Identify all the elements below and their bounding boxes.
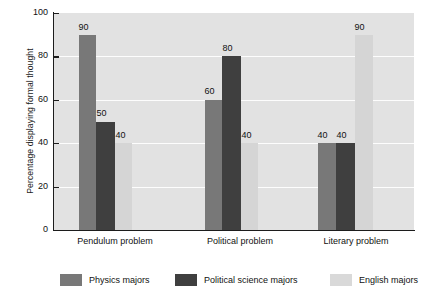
x-axis-label-political: Political problem — [175, 236, 305, 246]
y-axis-title: Percentage displaying formal thought — [25, 11, 35, 231]
legend-item-english-majors: English majors — [330, 271, 418, 289]
x-axis-label-literary: Literary problem — [292, 236, 420, 246]
y-tick-label-20: 20 — [14, 181, 48, 191]
value-label-pendulum-physics: 90 — [70, 22, 97, 32]
value-label-political-physics: 60 — [196, 86, 223, 96]
x-axis-label-pendulum: Pendulum problem — [45, 236, 185, 246]
legend-item-political-science-majors: Political science majors — [175, 271, 298, 289]
chart-legend: Physics majors Political science majors … — [0, 271, 431, 293]
bar-political-english — [241, 143, 258, 230]
legend-label-english-majors: English majors — [359, 275, 418, 285]
y-tick-40 — [54, 143, 59, 144]
y-tick-label-100: 100 — [14, 7, 48, 17]
legend-swatch-physics-majors — [60, 274, 82, 286]
bar-literary-political-science — [336, 143, 355, 230]
y-tick-100 — [54, 13, 59, 14]
y-tick-20 — [54, 187, 59, 188]
legend-label-physics-majors: Physics majors — [89, 275, 150, 285]
value-label-political-political-science: 80 — [214, 43, 241, 53]
value-label-pendulum-political-science: 50 — [88, 108, 115, 118]
value-label-political-english: 40 — [233, 130, 260, 140]
legend-item-physics-majors: Physics majors — [60, 271, 150, 289]
legend-swatch-english-majors — [330, 274, 352, 286]
x-axis-line — [53, 230, 415, 231]
bar-pendulum-english — [115, 143, 132, 230]
y-tick-80 — [54, 56, 59, 57]
y-tick-60 — [54, 100, 59, 101]
value-label-pendulum-english: 40 — [107, 130, 134, 140]
value-label-literary-english: 90 — [346, 22, 373, 32]
legend-swatch-political-science-majors — [175, 274, 197, 286]
bar-literary-english — [355, 35, 373, 230]
bar-pendulum-physics — [79, 35, 96, 230]
y-tick-0 — [54, 230, 59, 231]
y-tick-label-40: 40 — [14, 137, 48, 147]
y-tick-label-80: 80 — [14, 50, 48, 60]
y-axis-line — [53, 12, 54, 231]
bar-literary-physics — [318, 143, 336, 230]
bar-chart-figure: Percentage displaying formal thought 100… — [0, 0, 431, 307]
bar-political-physics — [205, 100, 222, 230]
legend-label-political-science-majors: Political science majors — [204, 275, 298, 285]
y-tick-label-60: 60 — [14, 94, 48, 104]
value-label-literary-political-science: 40 — [328, 130, 355, 140]
y-tick-label-0: 0 — [14, 224, 48, 234]
bar-political-political-science — [222, 56, 241, 230]
